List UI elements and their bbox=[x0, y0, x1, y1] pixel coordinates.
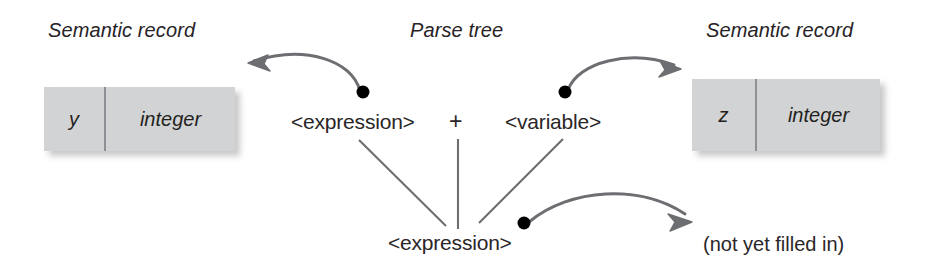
left-record-type: integer bbox=[140, 108, 201, 131]
parse-node-variable: <variable> bbox=[505, 111, 601, 132]
pointer-bottom-anchor-dot bbox=[518, 217, 531, 230]
right-record-name-cell: z bbox=[692, 79, 757, 151]
left-semantic-record: y integer bbox=[44, 87, 235, 151]
tree-edge-left bbox=[359, 140, 446, 226]
tree-edge-right bbox=[479, 139, 563, 223]
left-record-type-cell: integer bbox=[106, 87, 235, 151]
not-yet-filled-in-note: (not yet filled in) bbox=[703, 234, 844, 254]
right-record-title: Semantic record bbox=[706, 20, 853, 40]
pointer-left-record bbox=[248, 55, 370, 99]
pointer-left-arrowhead bbox=[248, 55, 270, 71]
pointer-left-curve bbox=[254, 55, 360, 91]
right-semantic-record: z integer bbox=[692, 79, 880, 151]
pointer-right-curve bbox=[568, 58, 674, 90]
left-record-title: Semantic record bbox=[48, 20, 195, 40]
parse-tree-title: Parse tree bbox=[410, 20, 503, 40]
pointer-right-record bbox=[559, 58, 682, 98]
pointer-bottom-arrowhead bbox=[668, 214, 692, 231]
pointer-left-anchor-dot bbox=[357, 86, 370, 99]
diagram-canvas: Semantic record Parse tree Semantic reco… bbox=[0, 0, 930, 277]
parse-node-expression-left: <expression> bbox=[291, 111, 415, 132]
left-record-name: y bbox=[69, 108, 79, 131]
pointer-not-filled bbox=[518, 194, 693, 231]
right-record-name: z bbox=[719, 104, 729, 127]
parse-node-expression-root: <expression> bbox=[388, 232, 512, 253]
parse-node-plus: + bbox=[449, 110, 462, 133]
parse-tree-edges bbox=[359, 139, 563, 229]
pointer-bottom-curve bbox=[529, 194, 685, 222]
right-record-type-cell: integer bbox=[757, 79, 880, 151]
right-record-type: integer bbox=[788, 104, 849, 127]
pointer-right-anchor-dot bbox=[559, 86, 572, 99]
left-record-name-cell: y bbox=[44, 87, 106, 151]
